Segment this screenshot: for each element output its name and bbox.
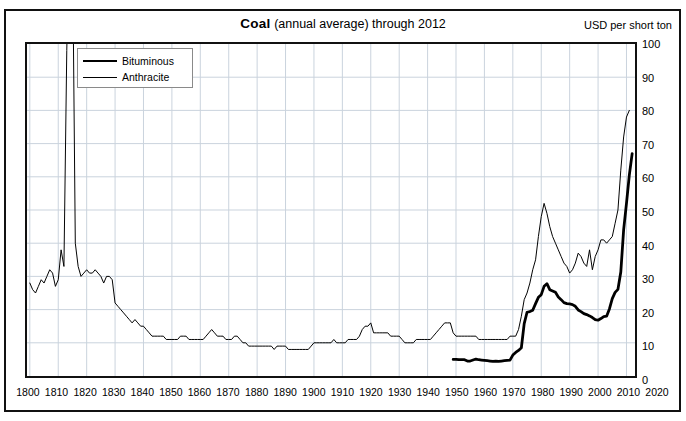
y-tick-label: 40: [642, 240, 654, 252]
x-tick-label: 1940: [417, 386, 440, 398]
x-tick-label: 1800: [16, 386, 39, 398]
x-tick-label: 1920: [359, 386, 382, 398]
legend-line-icon-bituminous: [83, 60, 117, 62]
y-tick-label: 0: [642, 374, 648, 386]
x-tick-label: 1960: [474, 386, 497, 398]
x-tick-label: 2020: [645, 386, 668, 398]
series-line-anthracite: [30, 44, 629, 349]
y-tick-label: 20: [642, 307, 654, 319]
plot-svg: [27, 44, 635, 376]
y-tick-label: 90: [642, 72, 654, 84]
legend-item-anthracite: Anthracite: [83, 69, 187, 85]
x-axis-tick-labels: 1800181018201830184018501860187018801890…: [0, 386, 686, 404]
x-tick-label: 1970: [502, 386, 525, 398]
legend-label-bituminous: Bituminous: [122, 55, 174, 67]
chart-figure: Coal (annual average) through 2012 USD p…: [0, 0, 686, 421]
y-tick-label: 30: [642, 273, 654, 285]
chart-legend: Bituminous Anthracite: [77, 48, 193, 88]
x-tick-label: 1830: [102, 386, 125, 398]
series-line-bituminous: [453, 154, 632, 362]
x-tick-label: 1820: [73, 386, 96, 398]
chart-title-rest: (annual average) through 2012: [271, 17, 446, 31]
y-tick-label: 70: [642, 139, 654, 151]
x-tick-label: 1810: [45, 386, 68, 398]
chart-title-strong: Coal: [240, 16, 270, 31]
x-tick-label: 1980: [531, 386, 554, 398]
y-axis-tick-labels: 0102030405060708090100: [640, 42, 684, 378]
x-tick-label: 1850: [159, 386, 182, 398]
plot-area: [25, 42, 637, 378]
x-tick-label: 1840: [131, 386, 154, 398]
x-tick-label: 2000: [588, 386, 611, 398]
y-axis-unit-label: USD per short ton: [584, 19, 672, 31]
x-tick-label: 1950: [445, 386, 468, 398]
x-tick-label: 1930: [388, 386, 411, 398]
x-tick-label: 1860: [188, 386, 211, 398]
x-tick-label: 1890: [274, 386, 297, 398]
x-tick-label: 1900: [302, 386, 325, 398]
y-tick-label: 80: [642, 105, 654, 117]
legend-label-anthracite: Anthracite: [122, 71, 169, 83]
x-tick-label: 1880: [245, 386, 268, 398]
legend-line-icon-anthracite: [83, 77, 117, 78]
y-tick-label: 60: [642, 172, 654, 184]
y-tick-label: 50: [642, 206, 654, 218]
x-tick-label: 1990: [560, 386, 583, 398]
legend-item-bituminous: Bituminous: [83, 53, 187, 69]
x-tick-label: 1870: [216, 386, 239, 398]
y-tick-label: 100: [642, 38, 660, 50]
x-tick-label: 2010: [617, 386, 640, 398]
y-gridlines: [27, 77, 635, 343]
x-tick-label: 1910: [331, 386, 354, 398]
y-tick-label: 10: [642, 340, 654, 352]
